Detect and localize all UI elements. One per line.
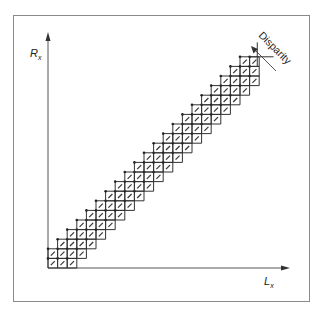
x-axis-label: Lx [264,275,274,289]
x-axis-arrow-icon [281,266,290,271]
x-axis [48,266,290,271]
y-axis-arrow-icon [46,32,51,41]
y-axis-label: Rx [30,47,42,61]
y-axis [46,32,51,268]
disparity-label: Disparity [257,29,295,67]
matching-lattice [47,42,274,268]
disparity-diagram: Rx Lx Disparity [0,0,322,312]
